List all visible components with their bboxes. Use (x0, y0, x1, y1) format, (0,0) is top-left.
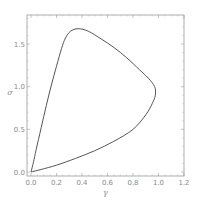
plot-frame (27, 15, 184, 176)
x-tick-label: 0.4 (76, 179, 88, 187)
x-tick-label: 0.0 (25, 179, 36, 187)
x-tick-label: 0.2 (51, 179, 62, 187)
y-axis-ticks: 0.00.51.01.5 (14, 18, 184, 176)
x-tick-label: 1.0 (153, 179, 164, 187)
data-curve (31, 29, 156, 172)
y-axis-label: σ (7, 88, 13, 97)
chart: 0.00.20.40.60.81.01.2 0.00.51.01.5 γ σ (0, 0, 198, 208)
y-tick-label: 1.5 (14, 41, 25, 49)
y-tick-label: 1.0 (14, 83, 25, 91)
y-tick-label: 0.0 (14, 169, 25, 177)
x-axis-ticks: 0.00.20.40.60.81.01.2 (25, 15, 189, 187)
x-tick-label: 1.2 (178, 179, 189, 187)
x-tick-label: 0.6 (102, 179, 114, 187)
x-axis-label: γ (103, 188, 108, 197)
y-tick-label: 0.5 (14, 126, 25, 134)
x-tick-label: 0.8 (127, 179, 138, 187)
